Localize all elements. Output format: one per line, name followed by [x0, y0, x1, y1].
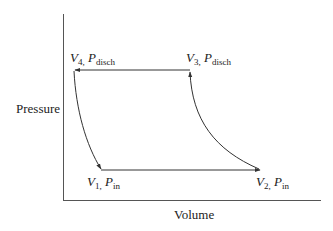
v3-var: V	[186, 50, 194, 65]
expansion-curve	[74, 71, 101, 169]
v3-p-sub: disch	[212, 57, 231, 67]
x-axis-label: Volume	[174, 208, 214, 221]
v1-p-sub: in	[113, 181, 120, 191]
v2-p: P	[274, 174, 282, 189]
v2-sub: 2,	[264, 181, 271, 191]
point-label-v4: V4, Pdisch	[70, 51, 115, 67]
v4-p-sub: disch	[96, 57, 115, 67]
point-label-v2: V2, Pin	[256, 175, 289, 191]
point-label-v3: V3, Pdisch	[186, 51, 231, 67]
v3-p: P	[204, 50, 212, 65]
v2-p-sub: in	[282, 181, 289, 191]
y-axis-label: Pressure	[16, 102, 60, 115]
v1-sub: 1,	[95, 181, 102, 191]
v1-p: P	[105, 174, 113, 189]
compression-curve	[190, 72, 259, 169]
v4-var: V	[70, 50, 78, 65]
v3-sub: 3,	[194, 57, 201, 67]
v4-p: P	[88, 50, 96, 65]
point-label-v1: V1, Pin	[87, 175, 120, 191]
v1-var: V	[87, 174, 95, 189]
v4-sub: 4,	[78, 57, 85, 67]
v2-var: V	[256, 174, 264, 189]
